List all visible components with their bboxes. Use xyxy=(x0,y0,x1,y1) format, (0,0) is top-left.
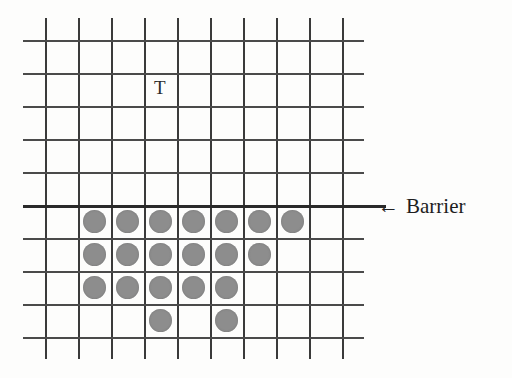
particle-token xyxy=(116,276,139,299)
diffusion-grid-figure: T ← Barrier xyxy=(0,0,512,378)
particle-token xyxy=(215,210,238,233)
particle-token xyxy=(83,276,106,299)
particle-token xyxy=(116,243,139,266)
particle-token xyxy=(215,243,238,266)
left-arrow-icon: ← xyxy=(378,196,399,217)
particle-token xyxy=(149,276,172,299)
particle-token xyxy=(182,276,205,299)
particle-token xyxy=(248,243,271,266)
barrier-label: Barrier xyxy=(406,196,465,217)
particle-token xyxy=(83,243,106,266)
particle-token xyxy=(248,210,271,233)
particle-token xyxy=(281,210,304,233)
particle-token xyxy=(215,276,238,299)
particle-token xyxy=(149,309,172,332)
particle-token xyxy=(116,210,139,233)
particle-token xyxy=(182,210,205,233)
barrier-annotation: ← Barrier xyxy=(378,196,465,217)
particle-token xyxy=(149,210,172,233)
token-layer xyxy=(0,0,512,378)
particle-token xyxy=(215,309,238,332)
particle-token xyxy=(149,243,172,266)
particle-token xyxy=(83,210,106,233)
particle-token xyxy=(182,243,205,266)
target-cell-label: T xyxy=(154,78,166,97)
